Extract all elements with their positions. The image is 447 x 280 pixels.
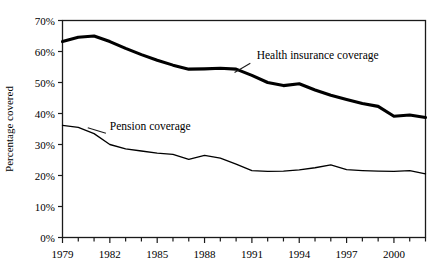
y-axis-tick-label: 0%	[40, 232, 55, 244]
y-axis-tick-label: 30%	[35, 139, 55, 151]
x-axis-tick-label: 1982	[99, 248, 121, 260]
y-axis-title: Percentage covered	[3, 86, 15, 172]
y-axis-tick-label: 10%	[35, 201, 55, 213]
line-chart: 0%10%20%30%40%50%60%70%19791982198519881…	[0, 0, 447, 280]
y-axis-tick-label: 40%	[35, 108, 55, 120]
chart-container: 0%10%20%30%40%50%60%70%19791982198519881…	[0, 0, 447, 280]
x-axis-tick-label: 1985	[146, 248, 169, 260]
x-axis-tick-label: 1988	[194, 248, 217, 260]
y-axis-tick-label: 60%	[35, 46, 55, 58]
series-line-pension	[63, 125, 426, 174]
y-axis-tick-label: 70%	[35, 15, 55, 27]
series-label-health-insurance: Health insurance coverage	[257, 49, 379, 62]
series-label-pension: Pension coverage	[110, 120, 191, 133]
y-axis-tick-label: 20%	[35, 170, 55, 182]
x-axis-tick-label: 1979	[52, 248, 75, 260]
series-line-health-insurance	[63, 36, 426, 118]
x-axis-tick-label: 2000	[383, 248, 406, 260]
x-axis-tick-label: 1991	[241, 248, 263, 260]
x-axis-tick-label: 1997	[336, 248, 359, 260]
x-axis-tick-label: 1994	[288, 248, 311, 260]
y-axis-tick-label: 50%	[35, 77, 55, 89]
